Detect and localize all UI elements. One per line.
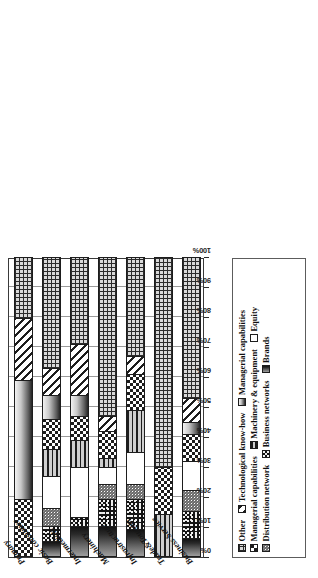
stacked-bar[interactable] xyxy=(42,257,61,557)
stacked-bar[interactable] xyxy=(98,257,117,557)
legend-swatch-icon xyxy=(250,334,258,342)
axis-tick xyxy=(204,467,209,468)
category-label: Machinery xyxy=(103,561,111,567)
category-label: Business Service xyxy=(187,561,195,567)
bar-segment[interactable] xyxy=(71,344,88,395)
bar-segment[interactable] xyxy=(15,318,32,381)
category-label: Primary xyxy=(19,561,27,567)
legend-label: Technological know-how xyxy=(237,413,247,503)
bar-segment[interactable] xyxy=(15,380,32,499)
axis-tick xyxy=(204,317,209,318)
legend-item[interactable]: Machinery & equipment xyxy=(248,349,260,449)
legend-row: Distribution networkBusiness networksBra… xyxy=(260,264,272,552)
bar-segment[interactable] xyxy=(43,476,60,509)
legend-swatch-icon xyxy=(262,365,270,373)
legend-swatch-icon xyxy=(250,441,258,449)
legend-swatch-icon xyxy=(238,505,246,513)
plot-area xyxy=(8,258,204,558)
bar-segment[interactable] xyxy=(15,258,32,318)
legend-item[interactable]: Distribution network xyxy=(260,465,272,552)
bar-segment[interactable] xyxy=(71,467,88,518)
bar-row xyxy=(98,259,117,557)
bar-segment[interactable] xyxy=(127,452,144,485)
bar-segment[interactable] xyxy=(127,356,144,374)
axis-tick xyxy=(204,257,209,258)
bar-segment[interactable] xyxy=(71,440,88,467)
axis-tick-label: 10% xyxy=(197,516,211,525)
legend-swatch-icon xyxy=(238,398,246,406)
legend-item[interactable]: Managerial capabilities xyxy=(236,310,248,406)
legend-swatch-icon xyxy=(238,544,246,552)
bar-segment[interactable] xyxy=(71,395,88,416)
legend-label: Machinery & equipment xyxy=(249,349,259,439)
bar-segment[interactable] xyxy=(99,258,116,416)
bar-segment[interactable] xyxy=(43,419,60,449)
axis-tick-label: 80% xyxy=(197,306,211,315)
bar-row xyxy=(14,259,33,557)
axis-tick xyxy=(204,407,209,408)
category-label: Trade&Tourism xyxy=(159,561,167,567)
stacked-bar[interactable] xyxy=(14,257,33,557)
bar-segment[interactable] xyxy=(71,416,88,440)
bar-segment[interactable] xyxy=(155,258,172,467)
legend-item[interactable]: Managerial capabilities xyxy=(248,456,260,552)
bar-segment[interactable] xyxy=(127,374,144,410)
legend-swatch-icon xyxy=(262,544,270,552)
bar-segment[interactable] xyxy=(71,258,88,344)
legend-label: Managerial capabilities xyxy=(249,456,259,541)
axis-tick xyxy=(204,347,209,348)
legend-label: Business networks xyxy=(261,380,271,447)
category-label: Intermediate xyxy=(75,561,83,567)
axis-tick-label: 40% xyxy=(197,426,211,435)
bar-segment[interactable] xyxy=(71,517,88,526)
axis-tick-label: 60% xyxy=(197,366,211,375)
legend-item[interactable]: Business networks xyxy=(260,380,272,457)
x-axis: 0%10%20%30%40%50%60%70%80%90%100% xyxy=(204,258,205,558)
legend-label: Other xyxy=(237,520,247,542)
legend-item[interactable]: Brands xyxy=(260,336,272,373)
axis-tick-label: 0% xyxy=(201,546,211,555)
legend-item[interactable]: Technological know-how xyxy=(236,413,248,513)
bar-segment[interactable] xyxy=(99,431,116,458)
bar-row xyxy=(182,259,201,557)
axis-tick xyxy=(204,497,209,498)
stacked-bar[interactable] xyxy=(126,257,145,557)
category-label: Infrastructure xyxy=(131,561,139,567)
axis-tick-label: 50% xyxy=(197,396,211,405)
stacked-bar[interactable] xyxy=(70,257,89,557)
bar-segment[interactable] xyxy=(43,368,60,395)
bar-segment[interactable] xyxy=(99,484,116,499)
bar-segment[interactable] xyxy=(99,416,116,431)
chart-legend: OtherTechnological know-howManagerial ca… xyxy=(232,258,306,558)
legend-label: Brands xyxy=(261,336,271,362)
bar-segment[interactable] xyxy=(127,258,144,356)
bar-segment[interactable] xyxy=(43,449,60,476)
axis-tick xyxy=(204,287,209,288)
bar-row xyxy=(70,259,89,557)
bar-segment[interactable] xyxy=(43,395,60,419)
bar-segment[interactable] xyxy=(43,258,60,368)
bar-segment[interactable] xyxy=(99,467,116,485)
bar-segment[interactable] xyxy=(99,458,116,467)
bar-row xyxy=(126,259,145,557)
axis-tick-label: 100% xyxy=(193,246,211,255)
bar-segment[interactable] xyxy=(155,467,172,515)
axis-tick-label: 90% xyxy=(197,276,211,285)
bar-segment[interactable] xyxy=(43,508,60,526)
legend-item[interactable]: Other xyxy=(236,520,248,552)
legend-row: Managerial capabilitiesMachinery & equip… xyxy=(248,264,260,552)
axis-tick-label: 20% xyxy=(197,486,211,495)
axis-tick xyxy=(204,437,209,438)
stacked-bar[interactable] xyxy=(154,257,173,557)
bar-segment[interactable] xyxy=(127,410,144,452)
legend-label: Equity xyxy=(249,307,259,332)
category-label: Basic consumer xyxy=(47,561,55,567)
bar-segment[interactable] xyxy=(127,484,144,499)
bar-row xyxy=(42,259,61,557)
legend-label: Managerial capabilities xyxy=(237,310,247,395)
legend-item[interactable]: Equity xyxy=(248,307,260,342)
stacked-bar[interactable] xyxy=(182,257,201,557)
rotated-figure: 0%10%20%30%40%50%60%70%80%90%100% Primar… xyxy=(0,0,318,578)
axis-tick-label: 70% xyxy=(197,336,211,345)
axis-tick-label: 30% xyxy=(197,456,211,465)
